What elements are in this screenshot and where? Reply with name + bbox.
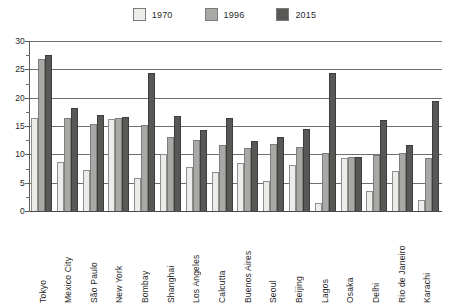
bar-2015 [380, 120, 387, 211]
x-axis-label-slot: Lagos [313, 215, 336, 303]
x-axis-tick-label: Los Angeles [191, 215, 201, 303]
x-axis-tick-label: New York [114, 215, 124, 303]
bar-groups-container [29, 41, 441, 211]
x-axis-label-slot: Los Angeles [185, 215, 208, 303]
bar-1970 [83, 170, 90, 211]
bar-group [366, 41, 387, 211]
bar-2015 [45, 55, 52, 211]
bar-1970 [289, 165, 296, 211]
bar-2015 [122, 117, 129, 211]
bar-1996 [193, 140, 200, 211]
bar-1970 [31, 118, 38, 212]
bar-group [237, 41, 258, 211]
x-axis-label-slot: Seoul [262, 215, 285, 303]
bar-2015 [71, 108, 78, 211]
x-axis-tick-label: Karachi [422, 215, 432, 303]
bar-1996 [115, 118, 122, 211]
bar-1996 [270, 144, 277, 211]
x-axis-tick-label: Osaka [345, 215, 355, 303]
x-axis-label-slot: Rio de Janeiro [390, 215, 413, 303]
bar-group [134, 41, 155, 211]
x-axis-tick-label: Seoul [268, 215, 278, 303]
bar-group [83, 41, 104, 211]
bar-1996 [322, 153, 329, 211]
y-axis-tick-label: 30 [15, 36, 25, 46]
bar-group [212, 41, 233, 211]
y-axis-tick-label: 20 [15, 93, 25, 103]
bar-2015 [432, 101, 439, 211]
bar-2015 [174, 116, 181, 211]
bar-1970 [186, 167, 193, 211]
x-axis-tick-label: Shanghai [166, 215, 176, 303]
bar-2015 [251, 141, 258, 211]
bar-1996 [373, 155, 380, 211]
bar-1970 [160, 154, 167, 211]
x-axis-label-slot: New York [108, 215, 131, 303]
x-axis-tick-label: Rio de Janeiro [397, 215, 407, 303]
x-axis-label-slot: Mexico City [57, 215, 80, 303]
bar-2015 [329, 73, 336, 211]
bar-1970 [237, 163, 244, 211]
x-axis-labels: TokyoMexico CitySão PauloNew YorkBombayS… [29, 215, 441, 303]
bar-2015 [226, 118, 233, 211]
bar-1970 [315, 203, 322, 211]
x-axis-tick-label: Tokyo [38, 215, 48, 303]
bar-1996 [64, 118, 71, 212]
bar-1970 [263, 181, 270, 211]
x-axis-label-slot: São Paulo [82, 215, 105, 303]
bar-2015 [355, 157, 362, 211]
y-axis-tick-label: 10 [15, 149, 25, 159]
gridline [30, 211, 442, 212]
bar-group [186, 41, 207, 211]
bar-group [160, 41, 181, 211]
bar-group [57, 41, 78, 211]
bar-1996 [399, 153, 406, 211]
x-axis-label-slot: Osaka [339, 215, 362, 303]
bar-group [31, 41, 52, 211]
x-axis-tick-label: Calcutta [217, 215, 227, 303]
x-axis-tick-label: Buenos Aires [243, 215, 253, 303]
bar-1996 [348, 157, 355, 211]
bar-group [418, 41, 439, 211]
bar-1996 [244, 148, 251, 211]
x-axis-tick-label: Delhi [371, 215, 381, 303]
bar-2015 [277, 137, 284, 211]
x-axis-label-slot: Shanghai [159, 215, 182, 303]
bar-group [289, 41, 310, 211]
bar-1970 [418, 200, 425, 211]
bar-group [108, 41, 129, 211]
bar-2015 [303, 129, 310, 211]
bar-1970 [392, 171, 399, 211]
bar-1970 [134, 178, 141, 211]
bar-chart: 197019962015 051015202530 TokyoMexico Ci… [0, 0, 449, 305]
bar-group [263, 41, 284, 211]
x-axis-label-slot: Beijing [288, 215, 311, 303]
x-axis-label-slot: Karachi [416, 215, 439, 303]
bar-1996 [219, 145, 226, 211]
x-axis-label-slot: Calcutta [211, 215, 234, 303]
bar-1996 [167, 137, 174, 211]
y-axis-labels: 051015202530 [0, 41, 25, 211]
x-axis-tick-label: Mexico City [63, 215, 73, 303]
x-axis-label-slot: Bombay [134, 215, 157, 303]
bar-1996 [425, 158, 432, 211]
y-axis-tick-label: 25 [15, 64, 25, 74]
y-axis-tick-major [25, 211, 30, 212]
plot-wrapper: 051015202530 TokyoMexico CitySão PauloNe… [0, 0, 449, 305]
x-axis-tick-label: Bombay [140, 215, 150, 303]
bar-1970 [57, 162, 64, 211]
bar-1996 [90, 124, 97, 211]
x-axis-label-slot: Tokyo [31, 215, 54, 303]
x-axis-tick-label: São Paulo [89, 215, 99, 303]
bar-1996 [141, 125, 148, 211]
bar-group [341, 41, 362, 211]
bar-1970 [108, 119, 115, 211]
bar-2015 [148, 73, 155, 211]
bar-2015 [406, 145, 413, 211]
bar-1996 [296, 147, 303, 211]
x-axis-label-slot: Buenos Aires [236, 215, 259, 303]
bar-1996 [38, 59, 45, 211]
bar-group [315, 41, 336, 211]
x-axis-tick-label: Lagos [320, 215, 330, 303]
bar-1970 [212, 172, 219, 211]
